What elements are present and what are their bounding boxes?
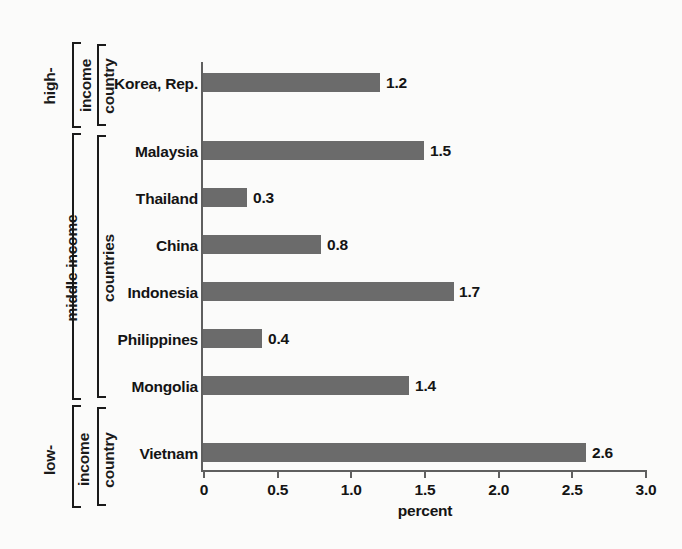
- x-tick-label-4: 2.0: [488, 482, 509, 498]
- x-axis: 0 0.5 1.0 1.5 2.0 2.5 3.0: [203, 470, 647, 471]
- bar-value-malaysia: 1.5: [430, 143, 451, 159]
- group-label-low-income-line1: low-: [41, 441, 59, 479]
- x-tick-1: [277, 470, 279, 478]
- x-tick-label-6: 3.0: [636, 482, 657, 498]
- category-label-philippines: Philippines: [118, 332, 198, 348]
- category-label-vietnam: Vietnam: [139, 446, 198, 462]
- x-tick-label-0: 0: [200, 482, 208, 498]
- bar-value-china: 0.8: [327, 237, 348, 253]
- category-label-malaysia: Malaysia: [135, 144, 198, 160]
- x-tick-label-3: 1.5: [415, 482, 436, 498]
- bar-value-korea: 1.2: [386, 75, 407, 91]
- x-tick-4: [498, 470, 500, 478]
- group-label-middle-income: middle-income: [63, 210, 81, 326]
- bar-value-thailand: 0.3: [253, 190, 274, 206]
- x-tick-6: [645, 470, 647, 478]
- x-tick-5: [571, 470, 573, 478]
- bar-value-mongolia: 1.4: [415, 378, 436, 394]
- bar-mongolia: [203, 376, 409, 395]
- group-label-low-income-line2: income: [75, 434, 93, 486]
- bar-value-indonesia: 1.7: [459, 284, 480, 300]
- bar-korea: [203, 73, 380, 92]
- x-tick-0: [203, 470, 205, 478]
- category-label-mongolia: Mongolia: [132, 379, 198, 395]
- category-label-column: Korea, Rep. Malaysia Thailand China Indo…: [110, 0, 198, 549]
- category-label-thailand: Thailand: [136, 191, 198, 207]
- x-tick-label-2: 1.0: [341, 482, 362, 498]
- x-tick-3: [424, 470, 426, 478]
- x-axis-title: percent: [203, 502, 647, 520]
- bar-value-vietnam: 2.6: [592, 445, 613, 461]
- bar-chart-figure: high- income country middle-income count…: [0, 0, 682, 549]
- bar-philippines: [203, 329, 262, 348]
- x-tick-label-1: 0.5: [267, 482, 288, 498]
- bar-malaysia: [203, 141, 424, 160]
- plot-area: 1.2 1.5 0.3 0.8 1.7 0.4 1.4 2.6: [203, 62, 645, 472]
- x-tick-2: [350, 470, 352, 478]
- group-label-high-income-line1: high-: [41, 64, 59, 108]
- bar-value-philippines: 0.4: [268, 331, 289, 347]
- category-label-korea: Korea, Rep.: [114, 76, 198, 92]
- bar-china: [203, 235, 321, 254]
- bar-vietnam: [203, 443, 586, 462]
- y-axis-line: [201, 62, 203, 472]
- category-label-china: China: [156, 238, 198, 254]
- x-tick-label-5: 2.5: [562, 482, 583, 498]
- bar-thailand: [203, 188, 247, 207]
- bar-indonesia: [203, 282, 454, 301]
- category-label-indonesia: Indonesia: [127, 285, 198, 301]
- group-label-high-income-line2: income: [77, 60, 95, 112]
